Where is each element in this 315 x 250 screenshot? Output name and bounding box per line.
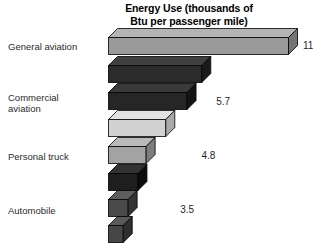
bar-top-face (109, 57, 211, 66)
bar-3 (108, 83, 198, 111)
bar-front-face (109, 174, 138, 191)
bar-category-label-line: General aviation (8, 41, 77, 52)
bar-value-label: 4.8 (202, 150, 216, 161)
bar-top-face (109, 84, 197, 93)
bar-1 (108, 28, 299, 56)
bar-value-label: 3.5 (180, 204, 194, 215)
chart-title: Energy Use (thousands of Btu per passeng… (104, 2, 274, 27)
bar-3d-shape (108, 216, 134, 244)
bar-category-label-line: Automobile (8, 205, 56, 216)
bar-front-face (109, 93, 188, 110)
bar-8 (108, 216, 134, 244)
bar-value-label: 5.7 (216, 96, 230, 107)
bar-3d-shape (108, 137, 157, 165)
bar-front-face (109, 147, 147, 164)
bar-front-face (109, 38, 289, 55)
bar-front-face (109, 200, 129, 217)
bar-front-face (109, 120, 166, 137)
bar-6 (108, 164, 148, 192)
chart-title-line-2: Btu per passenger mile) (104, 15, 274, 28)
bar-3d-shape (108, 190, 139, 218)
bar-front-face (109, 226, 124, 243)
chart-title-line-1: Energy Use (thousands of (104, 2, 274, 15)
bar-top-face (109, 29, 298, 38)
bar-4 (108, 110, 176, 138)
bar-category-label: Commercialaviation (8, 92, 59, 114)
bar-3d-shape (108, 83, 198, 111)
bar-5 (108, 137, 157, 165)
bar-3d-shape (108, 28, 299, 56)
bar-3d-shape (108, 164, 148, 192)
bar-front-face (109, 66, 202, 83)
bar-value-label: 11 (303, 40, 313, 51)
bar-chart-plot-area: General aviation11Commercialaviation5.7P… (0, 28, 315, 246)
bar-3d-shape (108, 110, 176, 138)
bar-category-label-line: aviation (8, 103, 59, 114)
bar-top-face (109, 111, 175, 120)
bar-7 (108, 190, 139, 218)
bar-category-label: Personal truck (8, 151, 69, 162)
bar-3d-shape (108, 56, 212, 84)
bar-2 (108, 56, 212, 84)
bar-category-label: General aviation (8, 41, 77, 52)
bar-category-label-line: Personal truck (8, 151, 69, 162)
chart-container: Energy Use (thousands of Btu per passeng… (0, 0, 315, 250)
bar-category-label-line: Commercial (8, 92, 59, 103)
bar-category-label: Automobile (8, 205, 56, 216)
